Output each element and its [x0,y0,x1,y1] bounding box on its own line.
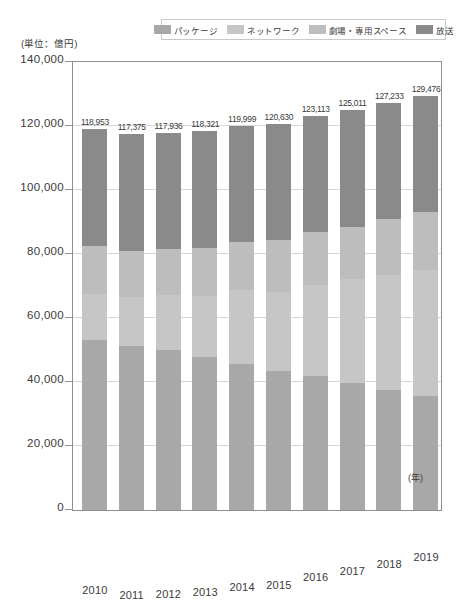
y-axis-tick [65,381,73,382]
bar-segment-4[interactable] [303,116,328,232]
stacked-bar[interactable]: 43,42324,72416,10836,375120,6302015 [266,124,291,510]
y-axis-tick-label: 0 [0,501,64,513]
legend-swatch-icon [227,25,244,34]
bar-series-container: 53,02214,48915,04636,396118,953201051,10… [73,62,441,510]
bar-segment-2[interactable] [413,270,438,396]
y-axis-tick-label: 100,000 [0,181,64,193]
stacked-bar[interactable]: 35,61639,29118,15636,413129,4762019 [413,96,438,510]
y-axis-tick [65,253,73,254]
y-axis-tick-label: 120,000 [0,117,64,129]
legend-item-4: 放送 [416,24,454,36]
y-axis-tick-label: 80,000 [0,245,64,257]
bar-segment-4[interactable] [376,103,401,219]
y-axis-tick-label: 40,000 [0,373,64,385]
bar-segment-4[interactable] [82,129,107,245]
legend-label: パッケージ [174,24,218,36]
bar-segment-4[interactable] [413,96,438,213]
bar-segment-3[interactable] [303,232,328,285]
legend-item-3: 劇場・専用スペース [309,24,407,36]
y-axis-tick [65,445,73,446]
legend-swatch-icon [416,25,433,34]
chart-plot-area: 53,02214,48915,04636,396118,953201051,10… [72,61,442,511]
y-axis-tick [65,509,73,510]
legend-label: 劇場・専用スペース [329,24,407,36]
y-axis-unit-label: (単位：億円) [21,36,77,50]
bar-segment-3[interactable] [340,227,365,280]
chart-legend: パッケージネットワーク劇場・専用スペース放送 [161,19,446,40]
bar-segment-4[interactable] [192,131,217,248]
legend-swatch-icon [309,25,326,34]
legend-label: ネットワーク [247,24,300,36]
bar-segment-3[interactable] [376,219,401,275]
bar-total-label: 129,476 [396,84,456,94]
legend-label: 放送 [436,24,454,36]
y-axis-tick [65,61,73,62]
y-axis-tick-label: 20,000 [0,437,64,449]
y-axis-tick-label: 60,000 [0,309,64,321]
bar-segment-1[interactable] [413,396,438,510]
bar-segment-3[interactable] [192,248,217,296]
bar-segment-3[interactable] [413,212,438,270]
bar-segment-3[interactable] [266,240,291,292]
legend-swatch-icon [154,25,171,34]
bar-segment-4[interactable] [340,110,365,227]
legend-item-2: ネットワーク [227,24,300,36]
y-axis-tick-label: 140,000 [0,53,64,65]
bar-segment-4[interactable] [266,124,291,240]
x-axis-tick-label: 2019 [403,551,449,563]
x-axis-unit-label: (年) [408,471,423,484]
legend-item-1: パッケージ [154,24,218,36]
